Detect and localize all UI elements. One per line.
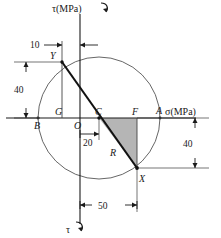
point-marker-x: [135, 166, 139, 170]
dim-label-50: 50: [98, 201, 108, 211]
point-label-o: O: [74, 120, 81, 131]
point-marker-b: [37, 117, 40, 120]
sigma-axis-label: σ(MPa): [165, 106, 196, 118]
point-label-x: X: [138, 173, 146, 184]
tau-axis-label: τ(MPa): [52, 3, 82, 15]
tau-bottom-label: τ: [66, 224, 70, 235]
point-label-b: B: [34, 120, 40, 131]
dim-label-10: 10: [30, 40, 40, 50]
mohrs-circle-figure: 10 40 20 40 50 Y G B O C F A R X τ(MPa) …: [0, 0, 221, 238]
point-label-a: A: [155, 105, 163, 116]
point-label-c: C: [95, 106, 102, 117]
point-marker-a: [159, 117, 162, 120]
point-label-g: G: [55, 106, 62, 117]
dim-label-20: 20: [83, 138, 93, 148]
point-label-r: R: [109, 147, 116, 158]
point-label-f: F: [131, 106, 139, 117]
dim-label-40-right: 40: [183, 139, 193, 149]
point-marker-y: [60, 60, 63, 63]
dim-label-40-left: 40: [14, 85, 24, 95]
